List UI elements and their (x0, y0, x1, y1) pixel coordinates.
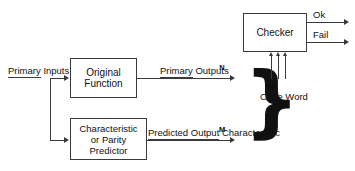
arrowhead-checker-ok (344, 19, 349, 25)
checker-ok-wire (307, 22, 347, 23)
original-function-line-1: Original (86, 67, 120, 79)
arrowhead-code-word-3 (283, 52, 287, 56)
original-function-line-2: Function (84, 78, 122, 90)
checker-fail-label: Fail (313, 30, 341, 41)
primary-outputs-label-line-1: Primary (160, 65, 193, 78)
primary-inputs-branch-wire (50, 78, 51, 140)
checker-label: Checker (256, 27, 293, 39)
bus-width-m-label: M (215, 126, 229, 134)
code-word-wire-2 (278, 56, 279, 79)
predicted-output-wire (147, 140, 232, 141)
checker-fail-wire (307, 42, 347, 43)
code-word-label: Code Word (260, 92, 298, 103)
parity-predictor-block: Characteristic or Parity Predictor (70, 118, 147, 160)
arrowhead-into-original-function (64, 75, 69, 81)
diagram-canvas: Primary Inputs Original Function Charact… (0, 0, 355, 171)
parity-predictor-line-3: Predictor (89, 145, 127, 156)
primary-inputs-label-line-1: Primary (8, 65, 41, 78)
original-function-block: Original Function (70, 58, 137, 98)
code-word-wire-3 (285, 56, 286, 79)
checker-ok-label: Ok (313, 10, 337, 21)
bus-width-n-label: N (215, 64, 229, 72)
code-word-wire-1 (271, 56, 272, 79)
code-word-line-2: Word (285, 91, 308, 102)
code-word-line-1: Code (260, 91, 283, 102)
arrowhead-into-parity-predictor (64, 137, 69, 143)
predicted-output-label-line-1: Predicted Output (148, 128, 219, 140)
primary-outputs-label: Primary Outputs (160, 66, 218, 77)
parity-predictor-line-2: or Parity (91, 134, 126, 145)
parity-predictor-line-1: Characteristic (79, 123, 137, 134)
arrowhead-checker-fail (344, 39, 349, 45)
primary-outputs-wire (137, 78, 232, 79)
primary-inputs-label: Primary Inputs (8, 66, 60, 77)
checker-block: Checker (243, 13, 307, 52)
arrowhead-code-word-2 (276, 52, 280, 56)
arrowhead-code-word-1 (269, 52, 273, 56)
arrowhead-primary-outputs (230, 75, 235, 81)
